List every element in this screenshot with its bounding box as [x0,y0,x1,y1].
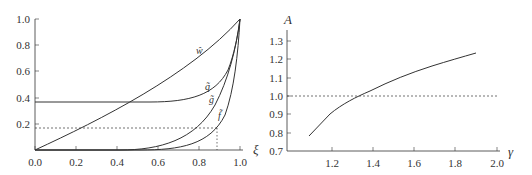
tick-label: 1.2 [325,157,339,169]
tick-label: 1.6 [407,157,421,169]
tick-label: 1.2 [269,53,283,65]
tick-label: 0.4 [16,92,30,104]
tick-label: 1.0 [269,90,283,102]
tick-label: 0.8 [16,39,30,51]
tick-label: 1.3 [269,35,283,47]
tick-label: 2.0 [490,157,504,169]
tick-label: 1.1 [269,72,283,84]
curve-label-w: ŵ [196,45,203,56]
right-y-axis-label: A [283,12,292,27]
left-x-axis-label: ξ [253,142,259,157]
right-x-axis-label: γ [508,144,514,159]
left-plot [35,19,243,150]
tick-label: 0.6 [16,65,30,77]
left-x-tick-labels: 0.0 0.2 0.4 0.6 0.8 1.0 [28,156,247,168]
figure: 0.0 0.2 0.4 0.6 0.8 1.0 0.2 0.4 0.6 0.8 … [0,0,532,175]
tick-label: 1.0 [233,156,247,168]
tick-label: 0.8 [269,127,283,139]
right-y-ticks [287,41,291,133]
right-plot [287,30,500,151]
tick-label: 0.0 [28,156,42,168]
tick-label: 1.4 [366,157,380,169]
left-y-ticks [35,19,39,124]
tick-label: 0.6 [151,156,165,168]
tick-label: 0.2 [69,156,83,168]
tick-label: 0.9 [269,108,283,120]
tick-label: 1.0 [16,13,30,25]
tick-label: 0.2 [16,118,30,130]
curve-A [309,53,476,136]
tick-label: 0.8 [192,156,206,168]
right-y-tick-labels: 0.7 0.8 0.9 1.0 1.1 1.2 1.3 [269,35,283,157]
tick-label: 0.7 [269,145,283,157]
curve-label-q: q̃ [205,81,210,92]
left-y-tick-labels: 0.2 0.4 0.6 0.8 1.0 [16,13,30,130]
tick-label: 1.8 [448,157,462,169]
tick-label: 0.4 [110,156,124,168]
curve-label-g: g̃ [209,94,214,105]
right-x-ticks [332,147,497,151]
right-x-tick-labels: 1.2 1.4 1.6 1.8 2.0 [325,157,504,169]
